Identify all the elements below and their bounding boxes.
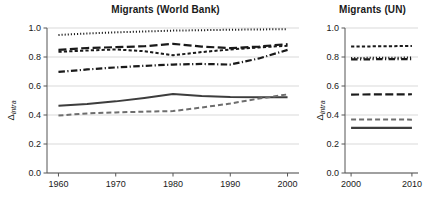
plot-area-world-bank: 0.00.20.40.60.81.019601970198019902000 (0, 0, 305, 203)
series-dash-dot-series (58, 50, 287, 72)
y-axis-label-base: Δ (314, 114, 325, 120)
y-tick-label: 1.0 (28, 23, 41, 33)
y-tick-label: 0.6 (326, 81, 339, 91)
x-tick-label: 2000 (278, 179, 298, 189)
series-dotted-series (58, 29, 287, 35)
y-tick-label: 1.0 (326, 23, 339, 33)
y-axis-label-subscript: intra (319, 100, 326, 114)
y-tick-label: 0.4 (326, 110, 339, 120)
y-tick-label: 0.0 (28, 168, 41, 178)
x-tick-label: 2010 (402, 179, 422, 189)
y-tick-label: 0.8 (28, 52, 41, 62)
y-axis-label-un: Δintra (314, 90, 327, 130)
y-tick-label: 0.6 (28, 81, 41, 91)
y-axis-label-base: Δ (5, 114, 16, 120)
y-tick-label: 0.4 (28, 110, 41, 120)
x-tick-label: 1990 (220, 179, 240, 189)
x-tick-label: 1980 (163, 179, 183, 189)
y-axis-label-subscript: intra (10, 100, 17, 114)
x-tick-label: 2000 (341, 179, 361, 189)
y-axis-label-world-bank: Δintra (5, 90, 18, 130)
y-tick-label: 0.0 (326, 168, 339, 178)
chart-panel-world-bank: Migrants (World Bank) 0.00.20.40.60.81.0… (0, 0, 305, 203)
x-tick-label: 1960 (48, 179, 68, 189)
figure-root: Migrants (World Bank) 0.00.20.40.60.81.0… (0, 0, 426, 203)
x-tick-label: 1970 (106, 179, 126, 189)
y-tick-label: 0.2 (326, 139, 339, 149)
series-short-dash-series (351, 46, 412, 47)
y-tick-label: 0.8 (326, 52, 339, 62)
y-tick-label: 0.2 (28, 139, 41, 149)
